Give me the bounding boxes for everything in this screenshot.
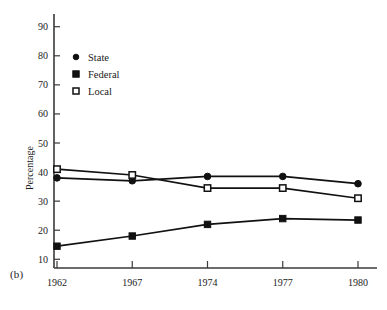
x-tick-label: 1977 — [273, 277, 293, 288]
data-point-marker — [355, 195, 361, 201]
x-tick-label: 1962 — [47, 277, 67, 288]
data-point-marker — [280, 185, 286, 191]
x-tick-label: 1980 — [348, 277, 368, 288]
chart-legend: StateFederalLocal — [73, 52, 120, 97]
y-tick-label: 90 — [38, 21, 48, 32]
series-federal — [54, 215, 361, 249]
series-local — [54, 166, 361, 201]
y-tick-label: 40 — [38, 167, 48, 178]
data-point-marker — [280, 215, 286, 221]
y-tick-label: 10 — [38, 254, 48, 265]
filled-square-icon — [73, 71, 79, 77]
x-tick-label: 1974 — [198, 277, 218, 288]
data-point-marker — [54, 175, 61, 182]
data-point-marker — [54, 243, 60, 249]
x-axis-ticks: 19621967197419771980 — [47, 261, 368, 288]
y-axis-ticks: 102030405060708090 — [38, 21, 60, 265]
data-point-marker — [279, 173, 286, 180]
open-square-icon — [73, 88, 79, 94]
data-point-marker — [204, 173, 211, 180]
y-tick-label: 80 — [38, 50, 48, 61]
data-point-marker — [129, 233, 135, 239]
y-tick-label: 60 — [38, 108, 48, 119]
y-tick-label: 20 — [38, 225, 48, 236]
panel-label: (b) — [10, 268, 23, 280]
data-point-marker — [129, 172, 135, 178]
data-point-marker — [204, 221, 210, 227]
data-point-marker — [54, 166, 60, 172]
filled-circle-icon — [73, 54, 79, 60]
line-chart-plot: 102030405060708090 19621967197419771980 … — [0, 0, 387, 310]
figure-panel-b: Percentage (b) 102030405060708090 196219… — [0, 0, 387, 310]
legend-label: State — [88, 52, 109, 63]
legend-label: Federal — [88, 69, 120, 80]
y-tick-label: 30 — [38, 196, 48, 207]
data-point-marker — [355, 217, 361, 223]
y-tick-label: 50 — [38, 138, 48, 149]
y-tick-label: 70 — [38, 79, 48, 90]
y-axis-title: Percentage — [24, 146, 35, 190]
data-point-marker — [355, 180, 362, 187]
data-series-group — [54, 166, 362, 249]
data-point-marker — [204, 185, 210, 191]
legend-label: Local — [88, 86, 112, 97]
x-tick-label: 1967 — [122, 277, 142, 288]
